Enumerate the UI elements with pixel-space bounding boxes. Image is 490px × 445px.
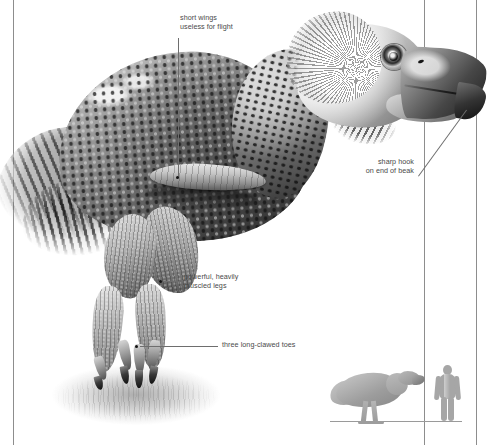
leader-line-muscled-legs [163, 281, 183, 282]
illustration-canvas: short wings useless for flight sharp hoo… [0, 0, 490, 445]
silhouette-human-leg [448, 397, 454, 421]
human-silhouette [434, 365, 460, 421]
silhouette-human-highlight [444, 374, 450, 400]
eye-pupil [389, 52, 398, 61]
annotation-short-wings: short wings useless for flight [180, 14, 278, 31]
annotation-sharp-hook: sharp hook on end of beak [338, 158, 414, 175]
leader-dot-wing [176, 176, 179, 179]
annotation-clawed-toes: three long-clawed toes [222, 341, 332, 350]
silhouette-human-leg [441, 397, 447, 421]
annotation-muscled-legs: powerful, heavily muscled legs [184, 273, 288, 290]
silhouette-human-arm [454, 376, 461, 400]
leader-dot-leg [159, 280, 162, 283]
leader-line-short-wings [178, 38, 179, 178]
leader-dot-toes [135, 345, 138, 348]
leader-line-clawed-toes [140, 346, 218, 347]
scale-comparison-inset [330, 360, 476, 428]
silhouette-beak [412, 375, 425, 385]
terror-bird-silhouette [332, 371, 424, 421]
silhouette-foot [370, 421, 384, 424]
